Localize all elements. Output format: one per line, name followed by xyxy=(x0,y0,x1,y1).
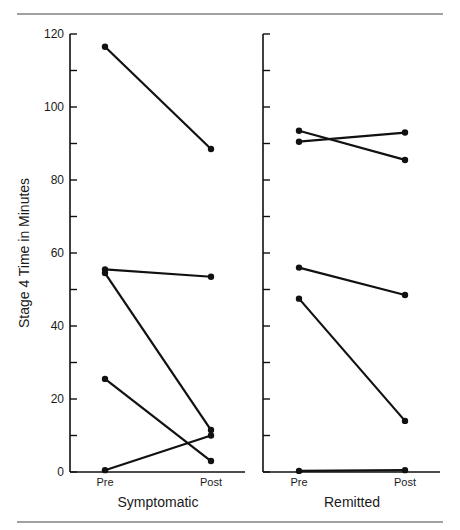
data-point xyxy=(402,418,408,424)
data-point xyxy=(102,44,108,50)
subject-line xyxy=(102,44,214,153)
subject-line xyxy=(102,432,214,473)
data-point xyxy=(402,129,408,135)
data-point xyxy=(208,458,214,464)
data-point xyxy=(208,274,214,280)
data-point xyxy=(402,157,408,163)
data-point xyxy=(296,128,302,134)
y-axis-label: Stage 4 Time in Minutes xyxy=(16,178,32,328)
left-post-label: Post xyxy=(200,476,222,488)
right-pre-label: Pre xyxy=(290,476,307,488)
data-point xyxy=(102,376,108,382)
subject-line xyxy=(102,270,214,433)
data-point xyxy=(102,467,108,473)
figure: Stage 4 Time in Minutes 020406080100120 … xyxy=(0,0,460,530)
data-point xyxy=(402,292,408,298)
subject-line xyxy=(102,376,214,465)
data-point xyxy=(296,264,302,270)
data-point xyxy=(402,467,408,473)
data-point xyxy=(208,432,214,438)
y-tick-label: 20 xyxy=(51,392,65,406)
subject-line xyxy=(102,266,214,280)
remitted-panel: Pre Post Remitted xyxy=(263,34,440,510)
symptomatic-panel: 020406080100120 Pre Post Symptomatic xyxy=(44,27,245,510)
y-tick-label: 60 xyxy=(51,246,65,260)
data-point xyxy=(296,295,302,301)
data-point xyxy=(102,270,108,276)
data-point xyxy=(208,146,214,152)
y-tick-label: 120 xyxy=(44,27,64,41)
data-point xyxy=(208,427,214,433)
subject-line xyxy=(296,264,408,298)
data-point xyxy=(296,138,302,144)
subject-line xyxy=(296,295,408,424)
y-tick-label: 100 xyxy=(44,100,64,114)
y-tick-label: 0 xyxy=(57,465,64,479)
left-x-axis-label: Symptomatic xyxy=(118,494,199,510)
y-tick-label: 80 xyxy=(51,173,65,187)
y-tick-label: 40 xyxy=(51,319,65,333)
data-point xyxy=(296,468,302,474)
left-pre-label: Pre xyxy=(96,476,113,488)
subject-line xyxy=(296,467,408,474)
right-post-label: Post xyxy=(394,476,416,488)
subject-line xyxy=(296,129,408,145)
right-x-axis-label: Remitted xyxy=(324,494,380,510)
